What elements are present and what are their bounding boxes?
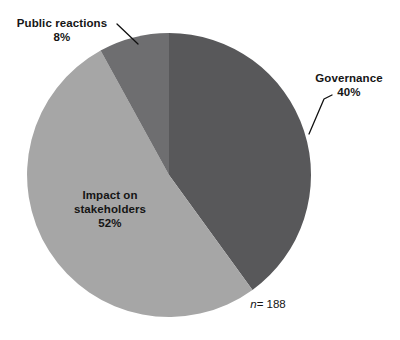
sample-size-note: n= 188 [228,298,308,310]
slice-value-governance: 40% [298,85,400,99]
slice-label-impact-on-stakeholders: Impact on stakeholders 52% [45,188,175,230]
sample-size-value: = 188 [257,298,286,310]
pie-chart-canvas [0,0,400,340]
slice-label-governance: Governance 40% [298,71,400,99]
slice-value-impact-on-stakeholders: 52% [45,216,175,230]
slice-label-governance-text: Governance [315,72,382,84]
leader-line-governance [309,95,332,134]
slice-label-public-reactions-text: Public reactions [17,17,107,29]
slice-label-impact-line2: stakeholders [45,202,175,216]
slice-label-impact-line1: Impact on [82,189,137,201]
slice-value-public-reactions: 8% [0,30,124,44]
pie-chart-figure: Public reactions 8% Governance 40% Impac… [0,0,400,340]
slice-label-public-reactions: Public reactions 8% [0,16,124,44]
